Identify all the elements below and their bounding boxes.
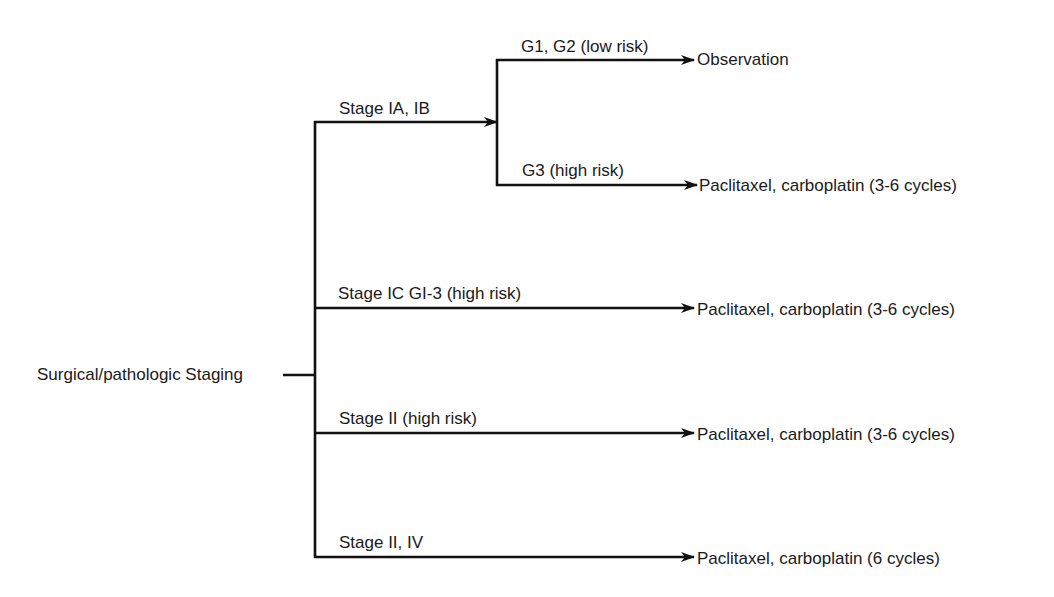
branch-label-stage-ii-iv: Stage II, IV xyxy=(339,534,423,551)
outcome-observation: Observation xyxy=(697,51,789,68)
outcome-g3-chemo: Paclitaxel, carboplatin (3-6 cycles) xyxy=(699,177,957,194)
outcome-stage-ii-chemo: Paclitaxel, carboplatin (3-6 cycles) xyxy=(697,426,955,443)
branch-label-g3: G3 (high risk) xyxy=(522,162,624,179)
branch-label-stage-ia-ib: Stage IA, IB xyxy=(339,100,430,117)
branch-label-stage-ii-high-risk: Stage II (high risk) xyxy=(339,410,477,427)
connector-lines xyxy=(0,0,1054,597)
outcome-stage-ic-chemo: Paclitaxel, carboplatin (3-6 cycles) xyxy=(697,301,955,318)
outcome-stage-ii-iv-chemo: Paclitaxel, carboplatin (6 cycles) xyxy=(697,550,940,567)
branch-label-stage-ic: Stage IC GI-3 (high risk) xyxy=(338,285,521,302)
root-label: Surgical/pathologic Staging xyxy=(37,366,243,383)
branch-label-g1-g2: G1, G2 (low risk) xyxy=(521,38,649,55)
